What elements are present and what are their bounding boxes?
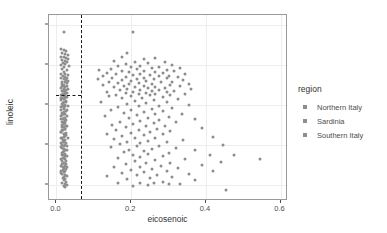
data-point <box>150 90 153 93</box>
data-point <box>152 182 155 185</box>
data-point <box>145 125 148 128</box>
data-point <box>171 80 174 83</box>
data-point <box>146 62 149 65</box>
x-axis-tick-mark <box>205 200 206 203</box>
gridline-vertical <box>206 15 207 199</box>
data-point <box>139 119 142 122</box>
data-point <box>221 143 224 146</box>
data-point <box>150 82 153 85</box>
y-axis-tick-mark <box>45 103 48 104</box>
data-point <box>154 57 157 60</box>
data-point <box>128 117 131 120</box>
data-point <box>161 110 164 113</box>
data-point <box>148 73 151 76</box>
data-point <box>120 78 123 81</box>
data-point <box>154 70 157 73</box>
data-point <box>132 153 135 156</box>
data-point <box>193 179 196 182</box>
data-point <box>165 101 168 104</box>
x-axis-tick-mark <box>55 200 56 203</box>
data-point <box>120 97 123 100</box>
data-point <box>126 87 129 90</box>
data-point <box>167 115 170 118</box>
data-point <box>132 184 135 187</box>
legend-item[interactable]: Southern Italy <box>298 128 386 142</box>
data-point <box>117 65 120 68</box>
data-point <box>169 84 172 87</box>
data-point <box>130 66 133 69</box>
data-point <box>133 99 136 102</box>
data-point <box>100 100 103 103</box>
data-point <box>124 92 127 95</box>
data-point <box>137 128 140 131</box>
data-point <box>201 163 204 166</box>
data-point <box>161 180 164 183</box>
data-point <box>143 58 146 61</box>
data-point <box>148 131 151 134</box>
data-point <box>113 138 116 141</box>
data-point <box>173 89 176 92</box>
data-point <box>161 72 164 75</box>
data-point <box>156 127 159 130</box>
data-point <box>109 67 112 70</box>
data-point <box>107 95 110 98</box>
data-point <box>122 151 125 154</box>
data-point <box>201 127 204 130</box>
legend-swatch-icon <box>298 114 312 128</box>
data-point <box>193 118 196 121</box>
data-point <box>189 88 192 91</box>
y-axis-tick-mark <box>45 183 48 184</box>
data-point <box>132 123 135 126</box>
x-axis-tick-label: 0.0 <box>50 204 60 213</box>
data-point <box>135 77 138 80</box>
data-point <box>158 88 161 91</box>
data-point <box>130 168 133 171</box>
data-point <box>126 140 129 143</box>
data-point <box>152 78 155 81</box>
data-point <box>135 68 138 71</box>
data-point <box>59 158 62 161</box>
data-point <box>135 114 138 117</box>
data-point <box>117 82 120 85</box>
legend-item[interactable]: Sardinia <box>298 114 386 128</box>
data-point <box>158 75 161 78</box>
data-point <box>139 155 142 158</box>
data-point <box>143 111 146 114</box>
data-point <box>133 137 136 140</box>
data-point <box>165 68 168 71</box>
data-point <box>176 76 179 79</box>
data-point <box>143 134 146 137</box>
legend-item[interactable]: Northern Italy <box>298 100 386 114</box>
x-axis-tick-mark <box>130 200 131 203</box>
data-point <box>113 59 116 62</box>
data-point <box>124 163 127 166</box>
data-point <box>150 167 153 170</box>
data-point <box>124 126 127 129</box>
data-point <box>128 148 131 151</box>
data-point <box>59 63 62 66</box>
data-point <box>139 142 142 145</box>
data-point <box>118 89 121 92</box>
legend-item-label: Southern Italy <box>317 131 363 140</box>
data-point <box>160 81 163 84</box>
data-point <box>120 56 123 59</box>
x-axis-title: eicosenoic <box>48 214 287 224</box>
gridline-horizontal <box>49 105 286 106</box>
data-point <box>174 121 177 124</box>
data-point <box>105 90 108 93</box>
data-point <box>105 132 108 135</box>
data-point <box>146 116 149 119</box>
data-point <box>163 61 166 64</box>
data-point <box>145 102 148 105</box>
data-point <box>137 93 140 96</box>
data-point <box>178 66 181 69</box>
data-point <box>161 133 164 136</box>
data-point <box>133 60 136 63</box>
data-point <box>130 108 133 111</box>
data-point <box>130 94 133 97</box>
data-point <box>132 90 135 93</box>
data-point <box>145 79 148 82</box>
data-point <box>139 181 142 184</box>
data-point <box>156 173 159 176</box>
data-point <box>182 79 185 82</box>
